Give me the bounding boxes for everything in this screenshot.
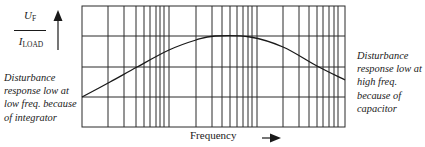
fraction-bar — [14, 30, 46, 31]
x-axis-label: Frequency — [190, 129, 236, 141]
y-axis-label-numerator: UF — [14, 9, 46, 23]
y-axis-label-denominator: ILOAD — [11, 35, 51, 49]
y-axis-arrow-icon — [54, 10, 63, 50]
low-frequency-annotation: Disturbance response low at low freq. be… — [4, 71, 80, 124]
log-grid — [82, 6, 345, 127]
high-frequency-annotation: Disturbance response low at high freq. b… — [357, 49, 425, 115]
disturbance-response-curve — [82, 36, 345, 97]
x-axis-arrow-icon — [262, 134, 281, 143]
